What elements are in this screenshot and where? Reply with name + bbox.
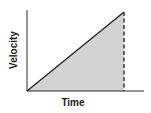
x-axis-label: Time <box>61 97 85 108</box>
velocity-time-graph: Time Velocity <box>0 0 151 113</box>
y-axis-label: Velocity <box>8 31 19 69</box>
